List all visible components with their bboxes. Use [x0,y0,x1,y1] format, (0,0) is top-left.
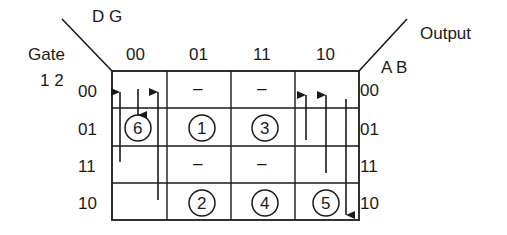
column-variables-label: D G [92,8,122,25]
stable-state-6: 6 [133,120,142,137]
column-header: 01 [189,46,208,63]
dont-care-cell: – [257,155,266,172]
stable-state-1: 1 [197,120,206,137]
row-title-label: Gate [28,46,65,63]
stable-state-5: 5 [321,195,330,212]
row-variables-label: 1 2 [40,72,64,89]
column-header: 00 [126,46,145,63]
row-header: 01 [78,121,97,138]
output-row-label: 01 [360,121,379,138]
column-header: 11 [253,46,271,63]
row-header: 10 [78,195,97,212]
row-header: 11 [78,158,96,175]
stable-state-4: 4 [260,195,269,212]
output-row-label: 10 [360,195,379,212]
stable-state-2: 2 [197,195,206,212]
dont-care-cell: – [193,80,202,97]
column-header: 10 [316,46,335,63]
stable-state-circles [125,115,339,216]
row-header: 00 [78,83,97,100]
dont-care-cell: – [257,80,266,97]
dont-care-cell: – [193,155,202,172]
column-header-diagonal [62,19,112,71]
output-row-label: 00 [360,82,379,99]
output-title-label: Output [420,25,471,42]
stable-state-3: 3 [260,120,269,137]
output-row-label: 11 [360,158,378,175]
output-variables-label: A B [381,59,407,76]
